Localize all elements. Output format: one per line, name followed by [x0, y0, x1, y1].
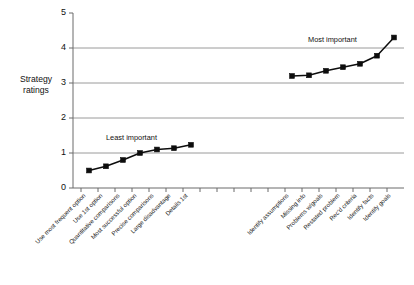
y-tick-label-4: 4 [61, 42, 66, 52]
data-point-marker [324, 68, 329, 73]
y-tick-label-1: 1 [61, 147, 66, 157]
data-point-marker [138, 151, 143, 156]
data-point-marker [358, 61, 363, 66]
y-tick-label-3: 3 [61, 77, 66, 87]
data-point-marker [341, 65, 346, 70]
y-axis-title-line1: Strategy [20, 74, 53, 84]
data-point-marker [121, 158, 126, 163]
data-point-marker [172, 146, 177, 151]
y-tick-label-0: 0 [61, 182, 66, 192]
data-point-marker [290, 74, 295, 79]
y-axis-title: Strategy ratings [20, 74, 53, 95]
y-tick-label-5: 5 [61, 7, 66, 17]
data-point-marker [189, 142, 194, 147]
data-point-marker [375, 53, 380, 58]
data-point-marker [392, 35, 397, 40]
data-point-marker [307, 73, 312, 78]
y-axis-title-line2: ratings [23, 85, 49, 95]
y-tick-label-2: 2 [61, 112, 66, 122]
annotation-least-important: Least important [106, 133, 157, 142]
data-point-marker [104, 164, 109, 169]
strategy-ratings-chart: 0 1 2 3 4 5 Strategy ratings [0, 0, 414, 285]
annotation-most-important: Most important [308, 35, 357, 44]
data-point-marker [155, 147, 160, 152]
data-point-marker [87, 168, 92, 173]
